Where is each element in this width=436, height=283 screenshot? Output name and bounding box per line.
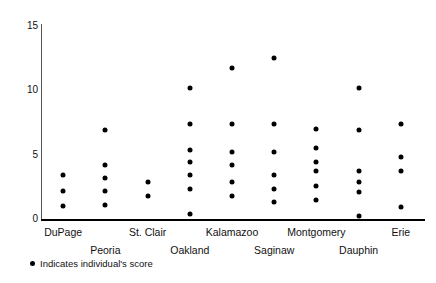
data-point [272,187,277,192]
y-axis-tick-labels: 051015 [0,0,38,283]
data-point [314,160,319,165]
x-axis-label-peoria: Peoria [90,244,120,256]
data-point [314,169,319,174]
x-axis-label-saginaw: Saginaw [254,244,294,256]
data-point [314,146,319,151]
data-point [356,214,361,219]
data-point [272,150,277,155]
data-point [356,179,361,184]
data-point [61,173,66,178]
data-point [187,85,192,90]
data-point [187,121,192,126]
data-point [398,169,403,174]
data-point [103,175,108,180]
legend-label: Indicates individual's score [40,258,153,269]
data-point [187,147,192,152]
x-axis-label-dupage: DuPage [44,226,82,238]
data-point [398,155,403,160]
data-point [230,162,235,167]
data-point [272,56,277,61]
data-point [356,85,361,90]
legend: Indicates individual's score [30,258,153,269]
dot-plot-chart: 051015 DuPagePeoriaSt. ClairOaklandKalam… [0,0,436,283]
legend-dot-icon [30,261,35,266]
data-point [398,205,403,210]
data-point [272,200,277,205]
data-point [230,193,235,198]
y-tick-label: 0 [4,214,38,224]
x-axis-label-st-clair: St. Clair [129,226,166,238]
data-point [187,160,192,165]
y-tick-label: 10 [4,85,38,95]
data-point [272,173,277,178]
data-point [272,121,277,126]
data-point [230,179,235,184]
data-point [103,128,108,133]
data-point [398,121,403,126]
data-point [356,189,361,194]
data-point [103,162,108,167]
x-axis-line [41,219,425,221]
data-point [356,169,361,174]
data-point [187,211,192,216]
data-point [187,173,192,178]
data-point [61,204,66,209]
data-point [230,66,235,71]
data-point [356,128,361,133]
data-point [145,179,150,184]
x-axis-label-dauphin: Dauphin [339,244,378,256]
x-axis-label-montgomery: Montgomery [287,226,345,238]
data-point [314,183,319,188]
data-point [103,202,108,207]
x-axis-label-erie: Erie [392,226,411,238]
data-point [103,188,108,193]
data-point [230,150,235,155]
data-point [145,193,150,198]
data-point [61,188,66,193]
data-point [230,121,235,126]
data-point [187,187,192,192]
x-axis-label-kalamazoo: Kalamazoo [206,226,259,238]
y-tick-label: 5 [4,150,38,160]
x-axis-label-oakland: Oakland [170,244,209,256]
y-tick-label: 15 [4,21,38,31]
data-point [314,126,319,131]
plot-area [42,26,422,219]
data-point [314,197,319,202]
